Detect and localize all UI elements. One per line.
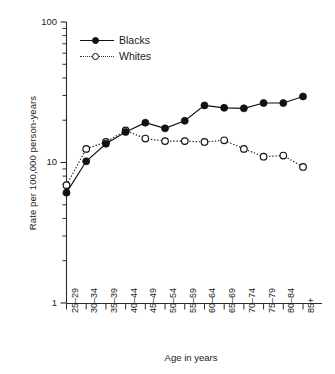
x-tick-label: 60–64 (208, 288, 217, 313)
x-tick-label: 75–79 (268, 288, 277, 313)
filled-circle-icon (92, 37, 99, 44)
x-tick-label: 30–34 (90, 288, 99, 313)
legend-swatch-whites (80, 50, 114, 62)
x-tick-label: 40–44 (130, 288, 139, 313)
y-axis-ticks (61, 22, 67, 303)
x-tick-label: 80–84 (287, 288, 296, 313)
legend-label: Whites (119, 50, 151, 62)
legend-item-blacks: Blacks (80, 32, 151, 48)
x-tick-label: 70–74 (248, 288, 257, 313)
legend-item-whites: Whites (80, 48, 151, 64)
series-whites (63, 127, 306, 188)
plot-area (0, 0, 335, 374)
x-tick-label: 35–39 (110, 288, 119, 313)
legend-label: Blacks (119, 34, 150, 46)
x-tick-label: 25–29 (71, 288, 80, 313)
x-axis-title: Age in years (66, 352, 316, 363)
x-tick-label: 45–49 (149, 288, 158, 313)
open-circle-icon (92, 53, 99, 60)
x-tick-label: 65–69 (228, 288, 237, 313)
x-tick-label: 85+ (307, 298, 316, 313)
chart-figure: Rate per 100,000 person-years 100 10 1 2… (0, 0, 335, 374)
legend-swatch-blacks (80, 34, 114, 46)
x-tick-label: 50–54 (169, 288, 178, 313)
chart-legend: Blacks Whites (80, 32, 151, 64)
x-tick-label: 55–59 (189, 288, 198, 313)
